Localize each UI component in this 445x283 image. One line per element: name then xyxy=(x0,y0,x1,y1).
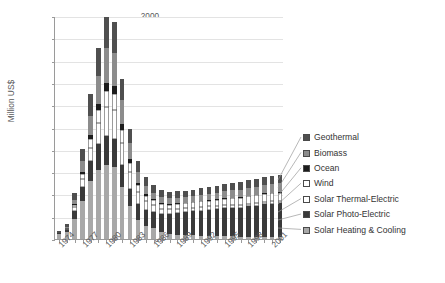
bar-segment xyxy=(262,194,267,202)
bar-segment xyxy=(88,116,93,135)
legend-label: Ocean xyxy=(314,164,339,173)
bar-segment xyxy=(278,193,283,201)
bar-segment xyxy=(88,94,93,116)
bar-segment xyxy=(120,143,125,165)
bar-segment xyxy=(222,184,227,191)
bar xyxy=(175,191,180,239)
bar-segment xyxy=(112,53,117,86)
bar-segment xyxy=(191,211,196,235)
bar-segment xyxy=(136,185,141,192)
bar-segment xyxy=(72,211,77,219)
bar xyxy=(96,48,101,239)
legend-label: Solar Heating & Cooling xyxy=(314,226,406,235)
bar-segment xyxy=(151,212,156,229)
bar-segment xyxy=(120,130,125,143)
bar-segment xyxy=(151,185,156,193)
bar-segment xyxy=(144,201,149,210)
bar-segment xyxy=(80,187,85,201)
bar-segment xyxy=(104,83,109,91)
bar-segment xyxy=(144,177,149,186)
bar-segment xyxy=(88,139,93,148)
bar-segment xyxy=(136,172,141,183)
bar-segment xyxy=(238,182,243,189)
bar-segment xyxy=(104,48,109,83)
bar-segment xyxy=(128,172,133,189)
bar-segment xyxy=(112,110,117,139)
bar-segment xyxy=(128,129,133,143)
legend-item-biomass: Biomass xyxy=(303,145,443,160)
bar-segment xyxy=(159,214,164,232)
bar-segment xyxy=(80,161,85,172)
bar-segment xyxy=(136,204,141,220)
bar-segment xyxy=(80,149,85,161)
bar xyxy=(144,177,149,239)
legend-swatch-icon xyxy=(303,180,310,187)
bar-segment xyxy=(112,167,117,239)
legend-label: Wind xyxy=(314,179,334,188)
bar-segment xyxy=(246,180,251,188)
bar-segment xyxy=(136,161,141,172)
legend-label: Solar Photo-Electric xyxy=(314,210,390,219)
bar-segment xyxy=(238,198,243,205)
bar-segment xyxy=(104,107,109,137)
bar-segment xyxy=(120,100,125,124)
bar-segment xyxy=(254,195,259,203)
bar-segment xyxy=(88,161,93,181)
bar-segment xyxy=(246,196,251,203)
bar-segment xyxy=(230,183,235,190)
bar-segment xyxy=(96,123,101,144)
bar-segment xyxy=(151,193,156,200)
bar-segment xyxy=(72,193,77,200)
legend-item-solar-photo-electric: Solar Photo-Electric xyxy=(303,207,443,222)
legend-swatch-icon xyxy=(303,150,310,157)
bar xyxy=(222,184,227,239)
chart-legend: GeothermalBiomassOceanWindSolar Thermal-… xyxy=(303,130,443,238)
bar-segment xyxy=(151,228,156,239)
bar-segment xyxy=(270,204,275,237)
bar-series-container xyxy=(55,17,283,239)
bar-segment xyxy=(144,210,149,226)
bar-segment xyxy=(262,204,267,236)
bar-segment xyxy=(80,179,85,187)
bar-segment xyxy=(128,189,133,206)
legend-item-geothermal: Geothermal xyxy=(303,130,443,145)
bar-segment xyxy=(262,185,267,193)
y-axis-title: Million US$ xyxy=(6,46,16,156)
bar-segment xyxy=(262,177,267,185)
bar-segment xyxy=(104,17,109,48)
bar-segment xyxy=(215,186,220,193)
chart-screenshot: Million US$ 2000180016001400120010008006… xyxy=(0,0,445,283)
bar-segment xyxy=(136,192,141,204)
legend-swatch-icon xyxy=(303,134,310,141)
legend-item-wind: Wind xyxy=(303,176,443,191)
bar-segment xyxy=(88,148,93,161)
legend-item-ocean: Ocean xyxy=(303,161,443,176)
bar-segment xyxy=(278,183,283,192)
bar-segment xyxy=(96,110,101,123)
bar xyxy=(120,79,125,239)
legend-swatch-icon xyxy=(303,196,310,203)
bar-segment xyxy=(112,22,117,53)
legend-item-solar-thermal-electric: Solar Thermal-Electric xyxy=(303,192,443,207)
bar-segment xyxy=(96,144,101,170)
legend-label: Geothermal xyxy=(314,133,359,142)
bar-segment xyxy=(128,163,133,172)
bar-segment xyxy=(230,198,235,205)
bar-segment xyxy=(215,193,220,200)
bar-segment xyxy=(199,211,204,236)
legend-label: Biomass xyxy=(314,149,347,158)
bar xyxy=(128,129,133,239)
bar xyxy=(167,192,172,239)
bar-segment xyxy=(120,79,125,100)
bar-segment xyxy=(112,94,117,110)
bar-segment xyxy=(238,190,243,198)
bar xyxy=(238,182,243,239)
legend-label: Solar Thermal-Electric xyxy=(314,195,399,204)
bar xyxy=(199,188,204,239)
bar-segment xyxy=(270,184,275,193)
legend-swatch-icon xyxy=(303,211,310,218)
bar-segment xyxy=(254,187,259,195)
bar-segment xyxy=(128,206,133,239)
bar-segment xyxy=(104,165,109,239)
bar-segment xyxy=(159,190,164,197)
